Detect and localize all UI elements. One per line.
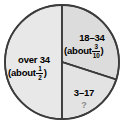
fraction-one-half-numerator: 1 (38, 66, 42, 72)
pie-label-3-17: 3–17 ? (64, 88, 104, 110)
fraction-three-tenths-numerator: 3 (94, 44, 98, 50)
pie-label-3-17-category: 3–17 (64, 88, 104, 99)
pie-label-over-34-fraction: (about 1 2 ) (8, 66, 47, 81)
pie-label-over-34: over 34 (about 1 2 ) (8, 55, 60, 81)
pie-label-over-34-about: (about (8, 68, 36, 79)
fraction-three-tenths-denominator: 10 (92, 53, 100, 59)
pie-label-18-34-about: (about (64, 46, 92, 57)
fraction-one-half-denominator: 2 (38, 75, 42, 81)
pie-label-18-34: 18–34 (about 3 10 ) (64, 33, 120, 59)
pie-label-18-34-fraction: (about 3 10 ) (64, 44, 104, 59)
fraction-three-tenths: 3 10 (92, 44, 100, 59)
pie-label-18-34-close-paren: ) (101, 46, 104, 57)
pie-label-over-34-category: over 34 (8, 55, 60, 66)
pie-label-over-34-close-paren: ) (44, 68, 47, 79)
fraction-one-half: 1 2 (36, 66, 43, 81)
pie-label-18-34-category: 18–34 (64, 33, 120, 44)
pie-label-3-17-unknown-value: ? (64, 100, 104, 110)
pie-chart: over 34 (about 1 2 ) 18–34 (about 3 10 )… (0, 0, 123, 126)
